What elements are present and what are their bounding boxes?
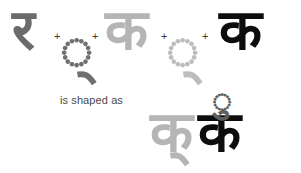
caption-is-shaped-as: is shaped as — [60, 95, 123, 106]
plus-operator-2: + — [92, 31, 98, 42]
glyph-half-ka: क् — [150, 104, 193, 160]
glyph-virama-2: ् — [166, 22, 199, 78]
glyph-ra: र — [12, 2, 35, 58]
glyph-virama-1: ् — [60, 22, 93, 78]
figure-canvas: र + ् + क + ् + क is shaped as क् क ु — [0, 0, 301, 173]
glyph-ka-light: क — [105, 2, 148, 58]
result-ligature: क् क ु — [150, 104, 290, 173]
glyph-ka-black: क — [219, 2, 262, 58]
glyph-repha: ु — [212, 83, 232, 117]
plus-operator-4: + — [202, 31, 208, 42]
